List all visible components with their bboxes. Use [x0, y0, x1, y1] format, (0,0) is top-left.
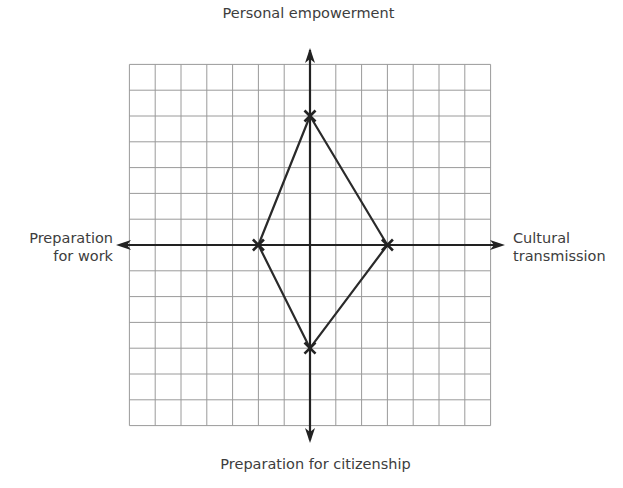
axis-label-top: Personal empowerment — [0, 4, 623, 22]
profile-polygon — [258, 116, 387, 348]
axis-label-right-line1: Cultural — [513, 229, 606, 247]
axis-label-left-line2: for work — [29, 247, 113, 265]
axes — [116, 48, 505, 443]
axis-label-personal-empowerment: Personal empowerment — [223, 5, 395, 21]
axis-label-right: Cultural transmission — [513, 229, 606, 265]
axis-label-preparation-for-citizenship: Preparation for citizenship — [220, 456, 410, 472]
axis-label-right-line2: transmission — [513, 247, 606, 265]
axis-label-left: Preparation for work — [29, 229, 113, 265]
axis-label-bottom: Preparation for citizenship — [0, 455, 623, 473]
axis-label-left-line1: Preparation — [29, 229, 113, 247]
vertex-markers — [253, 111, 393, 354]
